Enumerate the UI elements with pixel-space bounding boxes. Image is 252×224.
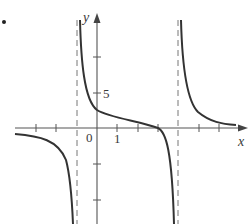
middle-branch-curve xyxy=(80,20,174,224)
x-axis-label: x xyxy=(237,134,245,149)
function-graph: y x 5 0 1 xyxy=(0,0,252,224)
left-branch-curve xyxy=(15,134,73,224)
y-axis-arrow-icon xyxy=(94,13,101,23)
origin-label: 0 xyxy=(86,130,93,145)
y-axis xyxy=(93,13,101,224)
y-tick-label-5: 5 xyxy=(103,86,110,101)
y-axis-label: y xyxy=(81,10,90,25)
right-branch-curve xyxy=(181,20,236,125)
x-axis xyxy=(15,124,248,132)
x-tick-label-1: 1 xyxy=(114,131,121,146)
bullet-marker xyxy=(2,20,6,24)
x-axis-arrow-icon xyxy=(238,125,248,132)
